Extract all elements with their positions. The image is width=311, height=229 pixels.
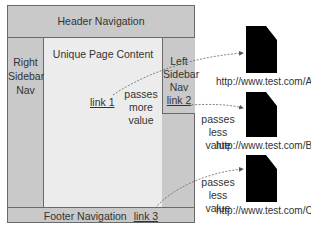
arrow-link-2 bbox=[188, 104, 243, 108]
arrow-link-3 bbox=[155, 169, 243, 208]
arrow-link-1 bbox=[113, 53, 243, 95]
link-arrows bbox=[0, 0, 311, 229]
